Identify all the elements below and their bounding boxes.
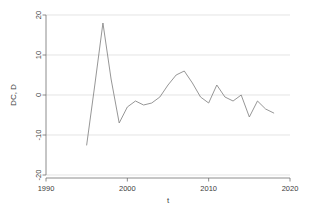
- y-axis-title: DC, D: [9, 84, 18, 106]
- y-tick-label: 0: [34, 93, 43, 97]
- x-tick-label: 2020: [282, 184, 299, 193]
- y-tick-label: 10: [34, 51, 43, 59]
- y-tick-label: -20: [34, 170, 43, 181]
- x-tick-label: 2000: [119, 184, 136, 193]
- y-tick-label: -10: [34, 130, 43, 141]
- x-tick-label: 1990: [38, 184, 55, 193]
- y-tick-label: 20: [34, 11, 43, 19]
- chart-background: [0, 0, 310, 212]
- chart-container: -20-1001020 1990200020102020 DC, D t: [0, 0, 310, 212]
- x-tick-label: 2010: [200, 184, 217, 193]
- line-chart: -20-1001020 1990200020102020 DC, D t: [0, 0, 310, 212]
